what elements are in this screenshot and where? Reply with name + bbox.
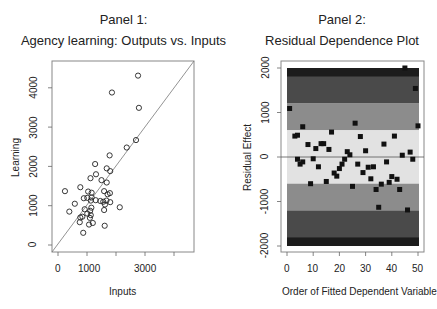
panel2-data-point [326, 147, 331, 152]
panel2-label: Panel 2: [250, 12, 434, 27]
panel2-data-point [389, 174, 394, 179]
panel2-data-point [360, 170, 365, 175]
panel1-xtick-3000: 3000 [134, 263, 156, 274]
panel1-data-point [99, 178, 104, 183]
panel2-data-point [295, 133, 300, 138]
panel2-ytick-1000: 1000 [260, 101, 271, 123]
panel2-xtick-40: 40 [386, 263, 397, 274]
panel2-data-point [337, 166, 342, 171]
panel2-data-point [308, 181, 313, 186]
panel2-xlabel: Order of Fitted Dependent Variable [282, 286, 437, 297]
panel1-data-point [117, 205, 122, 210]
panel2-data-point [392, 134, 397, 139]
panel2-data-point [355, 162, 360, 167]
panel2-data-point [381, 142, 386, 147]
panel2-data-point [397, 187, 402, 192]
panel2-ytick-0: 0 [259, 154, 270, 160]
panel1-data-point [133, 137, 138, 142]
panel2-data-point [300, 159, 305, 164]
panel1-data-point [93, 172, 98, 177]
panel1-data-point [62, 189, 67, 194]
panel2-data-point [334, 174, 339, 179]
panel1-ytick-4000: 4000 [28, 76, 39, 98]
panel2-data-point [395, 177, 400, 182]
panel1-xtick-0: 0 [55, 263, 61, 274]
panel2-band [287, 210, 419, 237]
panel2-data-point [300, 124, 305, 129]
panel2-data-point [329, 130, 334, 135]
panel1-xtick-1000: 1000 [78, 263, 100, 274]
panel2-data-point [368, 176, 373, 181]
panel1-ytick-0: 0 [27, 242, 38, 248]
panel2-data-point [316, 164, 321, 169]
panel2-data-point [416, 123, 421, 128]
panel1-data-point [136, 105, 141, 110]
panel1-xlabel: Inputs [109, 286, 136, 297]
panel1-data-point [109, 90, 114, 95]
panel2-data-point [402, 66, 407, 71]
panel1-ytick-3000: 3000 [28, 116, 39, 138]
panel1-data-point [88, 176, 93, 181]
panel2-ytick-neg2000: -2000 [259, 233, 270, 259]
panel1-data-point [107, 153, 112, 158]
panel1-ytick-1000: 1000 [28, 194, 39, 216]
panel2-xtick-50: 50 [412, 263, 423, 274]
panel2-data-point [342, 157, 347, 162]
panel1-data-point [67, 209, 72, 214]
panel2-data-point [408, 150, 413, 155]
panel2-data-point [379, 182, 384, 187]
panel2-band [287, 77, 419, 104]
panel2-data-point [374, 187, 379, 192]
panel2-data-point [287, 106, 292, 111]
panel2-data-point [410, 157, 415, 162]
panel1-data-point [89, 205, 94, 210]
panel2-data-point [305, 142, 310, 147]
panel2-data-point [313, 146, 318, 151]
panel2-xtick-0: 0 [284, 263, 290, 274]
panel1-data-point [86, 189, 91, 194]
panel1-data-point [104, 180, 109, 185]
panel2-data-point [347, 152, 352, 157]
panel2-data-point [413, 86, 418, 91]
panel2-data-point [387, 180, 392, 185]
panel2-title: Residual Dependence Plot [250, 33, 434, 48]
panel2-data-point [324, 179, 329, 184]
panel2-data-point [376, 205, 381, 210]
panel1-reference-line [52, 61, 194, 252]
panel2-ytick-2000: 2000 [260, 56, 271, 78]
panel1-data-point [135, 73, 140, 78]
panel2-band [287, 237, 419, 246]
panel2-data-point [363, 148, 368, 153]
panel2-data-point [400, 153, 405, 158]
panel2-data-point [321, 141, 326, 146]
panel1-data-point [78, 185, 83, 190]
panel2-ytick-neg1000: -1000 [259, 189, 270, 215]
panel2-data-point [350, 184, 355, 189]
panel1-data-point [102, 189, 107, 194]
panel1-data-point [88, 198, 93, 203]
panel2-ylabel: Residual Effect [242, 118, 253, 198]
panel1-ytick-2000: 2000 [28, 155, 39, 177]
panel1-data-point [104, 166, 109, 171]
panel2-band [287, 104, 419, 131]
panel1-data-point [102, 207, 107, 212]
panel1-data-point [124, 145, 129, 150]
panel1-data-point [72, 201, 77, 206]
panel1-data-point [81, 230, 86, 235]
panel2-data-point [371, 164, 376, 169]
panel1-data-point [93, 161, 98, 166]
panel2-data-point [353, 121, 358, 126]
panel2-xtick-30: 30 [360, 263, 371, 274]
panel2-xtick-20: 20 [334, 263, 345, 274]
panel2-data-point [366, 165, 371, 170]
panel2-data-point [311, 156, 316, 161]
panel1-ylabel: Learning [10, 133, 21, 183]
panel2-data-point [405, 207, 410, 212]
panel2-data-point [358, 134, 363, 139]
panel2-data-point [295, 157, 300, 162]
panel2-data-point [384, 159, 389, 164]
panel1-data-point [102, 223, 107, 228]
panel2-data-point [340, 162, 345, 167]
panel2-xtick-10: 10 [307, 263, 318, 274]
panel2-band [287, 68, 419, 77]
